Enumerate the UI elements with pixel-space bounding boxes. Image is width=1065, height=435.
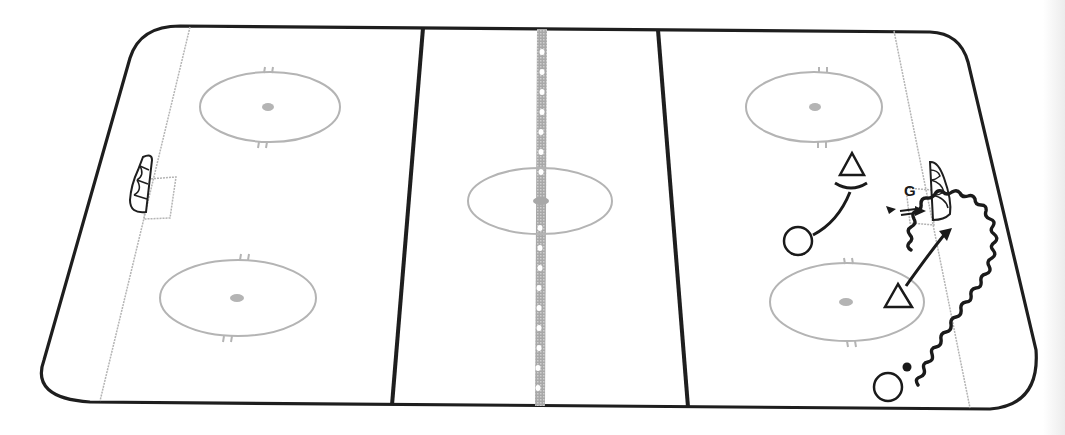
goalie-label: G [904, 182, 916, 199]
player-offense-circle-top[interactable] [784, 227, 812, 255]
hockey-drill-diagram: G [0, 0, 1065, 435]
puck-icon[interactable] [903, 363, 912, 372]
page-edge-shadow [1043, 0, 1065, 435]
circle-icon [874, 373, 902, 401]
rink-canvas: G [0, 0, 1065, 435]
circle-icon [784, 227, 812, 255]
center-red-line [535, 29, 547, 406]
player-offense-circle-bottom[interactable] [874, 373, 902, 401]
